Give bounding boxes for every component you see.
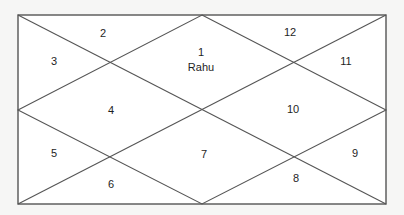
house-1-planet-rahu: Rahu: [188, 61, 214, 74]
house-3-number: 3: [51, 55, 57, 68]
house-1-number: 1: [198, 46, 204, 59]
house-2-number: 2: [100, 27, 106, 40]
house-11-number: 11: [340, 55, 351, 68]
house-10-number: 10: [287, 103, 299, 116]
house-9-number: 9: [352, 147, 358, 160]
horoscope-chart: [0, 0, 404, 215]
house-5-number: 5: [51, 147, 57, 160]
house-7-number: 7: [201, 148, 207, 161]
house-8-number: 8: [293, 172, 299, 185]
house-6-number: 6: [108, 178, 114, 191]
house-4-number: 4: [108, 104, 114, 117]
house-12-number: 12: [284, 26, 296, 39]
